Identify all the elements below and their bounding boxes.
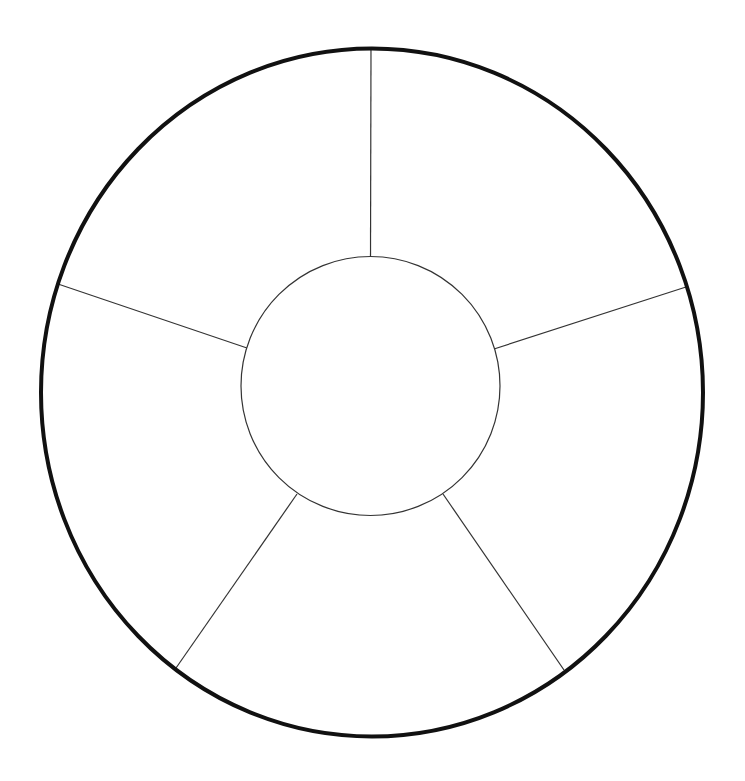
inner-circle (241, 257, 500, 516)
segmented-ring-diagram (0, 0, 745, 781)
spoke-top (371, 48, 372, 257)
